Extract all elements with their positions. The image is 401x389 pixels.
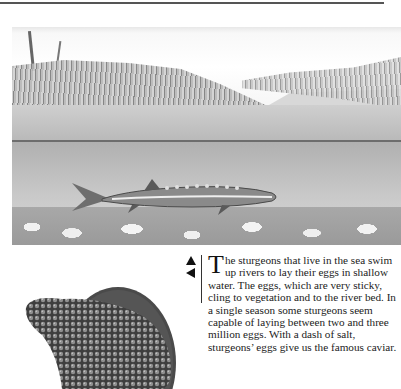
caviar-dish-image bbox=[22, 285, 182, 389]
navigation-markers bbox=[185, 256, 197, 280]
up-triangle-icon[interactable] bbox=[186, 256, 196, 265]
drop-cap: T bbox=[208, 255, 224, 275]
text-margin-rule bbox=[201, 255, 202, 303]
sturgeon-fish bbox=[72, 177, 282, 217]
left-triangle-icon[interactable] bbox=[186, 268, 195, 278]
article-text: he sturgeons that live in the sea swim u… bbox=[208, 254, 396, 353]
river-surface-view bbox=[12, 105, 401, 141]
river-sturgeon-illustration bbox=[12, 27, 401, 245]
top-rule bbox=[0, 2, 384, 4]
article-paragraph: The sturgeons that live in the sea swim … bbox=[208, 254, 401, 353]
